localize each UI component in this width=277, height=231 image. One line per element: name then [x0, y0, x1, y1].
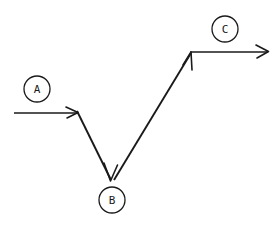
node-c-label: C: [222, 23, 229, 36]
ascending-arrowhead-icon: [183, 52, 192, 70]
node-a-label: A: [34, 83, 41, 96]
node-c[interactable]: C: [212, 16, 238, 42]
diagram-canvas: A B C: [0, 0, 277, 231]
flow-diagram: A B C: [0, 0, 277, 231]
node-b-label: B: [109, 194, 116, 207]
node-b[interactable]: B: [99, 187, 125, 213]
segment-descending: [77, 111, 118, 181]
segment-exit-horizontal: [190, 45, 269, 58]
segment-ascending: [114, 52, 192, 180]
ascending-line: [114, 53, 191, 180]
node-a[interactable]: A: [24, 76, 50, 102]
segment-entry-horizontal: [14, 107, 78, 118]
